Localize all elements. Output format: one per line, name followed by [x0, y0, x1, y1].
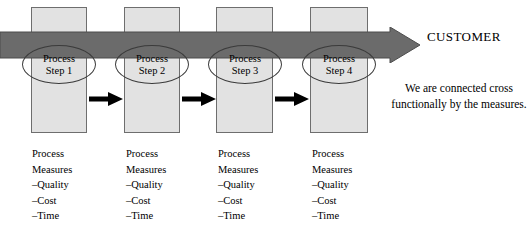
- flow-arrow-1-to-2-icon: [89, 91, 123, 107]
- measures-title-4-line2: Measures: [312, 162, 352, 178]
- process-step-3-line1: Process: [229, 53, 261, 64]
- flow-arrow-2-to-3-icon: [182, 91, 216, 107]
- process-step-1-line1: Process: [43, 53, 75, 64]
- flow-arrow-3-to-4-icon: [275, 91, 309, 107]
- measure-item-cost-4: –Cost: [312, 193, 352, 209]
- measure-item-cost-3: –Cost: [218, 193, 258, 209]
- measures-title-1-line1: Process: [32, 146, 72, 162]
- process-measures-diagram: Process Step 1 Process Step 2 Process St…: [0, 0, 532, 228]
- measures-block-4: Process Measures –Quality –Cost –Time: [312, 146, 352, 224]
- measure-item-cost-2: –Cost: [126, 193, 166, 209]
- process-step-4-line1: Process: [323, 53, 355, 64]
- measures-block-1: Process Measures –Quality –Cost –Time: [32, 146, 72, 224]
- process-step-2-ellipse: Process Step 2: [115, 45, 189, 84]
- measures-title-2-line1: Process: [126, 146, 166, 162]
- process-step-2-line2: Step 2: [139, 65, 166, 76]
- measures-title-2-line2: Measures: [126, 162, 166, 178]
- process-step-1-line2: Step 1: [46, 65, 73, 76]
- cross-functional-note: We are connected cross functionally by t…: [388, 81, 530, 112]
- measure-item-quality-4: –Quality: [312, 177, 352, 193]
- process-step-2-line1: Process: [136, 53, 168, 64]
- measure-item-quality-1: –Quality: [32, 177, 72, 193]
- measures-title-4-line1: Process: [312, 146, 352, 162]
- process-step-3-line2: Step 3: [232, 65, 259, 76]
- measures-title-3-line2: Measures: [218, 162, 258, 178]
- customer-label: CUSTOMER: [427, 29, 501, 45]
- measure-item-time-1: –Time: [32, 208, 72, 224]
- process-step-4-ellipse: Process Step 4: [302, 45, 376, 84]
- measure-item-cost-1: –Cost: [32, 193, 72, 209]
- measures-title-1-line2: Measures: [32, 162, 72, 178]
- measure-item-time-3: –Time: [218, 208, 258, 224]
- measure-item-time-4: –Time: [312, 208, 352, 224]
- measures-block-3: Process Measures –Quality –Cost –Time: [218, 146, 258, 224]
- process-step-4-line2: Step 4: [326, 65, 353, 76]
- measure-item-quality-2: –Quality: [126, 177, 166, 193]
- measure-item-time-2: –Time: [126, 208, 166, 224]
- process-step-3-ellipse: Process Step 3: [208, 45, 282, 84]
- measures-block-2: Process Measures –Quality –Cost –Time: [126, 146, 166, 224]
- measure-item-quality-3: –Quality: [218, 177, 258, 193]
- measures-title-3-line1: Process: [218, 146, 258, 162]
- process-step-1-ellipse: Process Step 1: [22, 45, 96, 84]
